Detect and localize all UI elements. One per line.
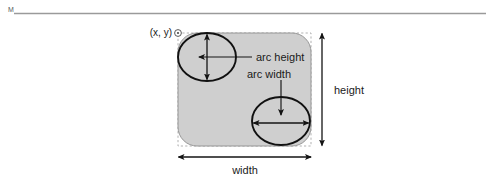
origin-point-dot-icon (177, 32, 179, 34)
origin-label: (x, y) (150, 27, 172, 38)
page-corner-mark: M (8, 6, 14, 13)
rounded-rectangle-shape (178, 33, 311, 146)
diagram-page: M (x, y) arc height arc width height wid… (0, 0, 498, 183)
rounded-rect-dimension-diagram: M (x, y) arc height arc width height wid… (0, 0, 498, 183)
height-label: height (334, 84, 364, 96)
arc-width-label: arc width (247, 68, 291, 80)
arc-height-label: arc height (256, 51, 304, 63)
width-label: width (231, 164, 258, 176)
